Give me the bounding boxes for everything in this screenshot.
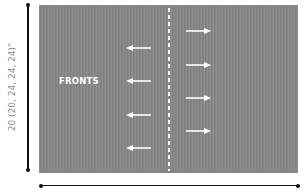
fronts-label: FRONTS (59, 76, 99, 86)
arrow-left-icon (126, 45, 152, 51)
arrow-right-icon (185, 128, 211, 134)
center-dashed-line (168, 8, 170, 171)
arrow-right-icon (185, 95, 211, 101)
width-dimension-endpoint-right (296, 184, 300, 188)
arrow-left-icon (126, 145, 152, 151)
height-dimension-endpoint-top (26, 3, 30, 7)
fronts-panel: FRONTS (39, 5, 298, 173)
height-dimension-endpoint-bottom (26, 168, 30, 172)
width-dimension-endpoint-left (39, 184, 43, 188)
height-dimension-label: 20 (20, 24, 24, 24)" (7, 43, 17, 131)
height-dimension-line (27, 5, 29, 170)
arrow-left-icon (126, 78, 152, 84)
arrow-right-icon (185, 28, 211, 34)
arrow-right-icon (185, 62, 211, 68)
width-dimension-line (40, 185, 298, 187)
arrow-left-icon (126, 112, 152, 118)
